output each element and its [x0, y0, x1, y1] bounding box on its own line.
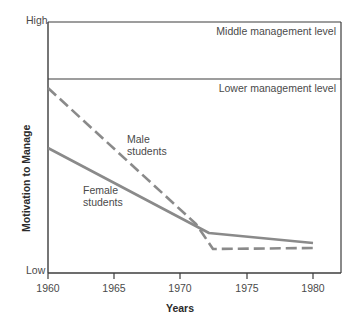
band-label-middle-management: Middle management level	[0, 25, 336, 37]
x-axis-tick-label-1965: 1965	[94, 282, 134, 294]
y-axis-title: Motivation to Manage	[20, 125, 32, 232]
band-label-lower-management: Lower management level	[0, 82, 336, 94]
x-axis-tick-label-1960: 1960	[28, 282, 68, 294]
series-label-female-line2: students	[83, 196, 123, 208]
series-label-male-line1: Male	[127, 133, 167, 145]
motivation-to-manage-chart: High Low Motivation to Manage Middle man…	[0, 0, 360, 327]
y-axis-low-label: Low	[26, 264, 45, 276]
x-axis-tick-label-1970: 1970	[160, 282, 200, 294]
x-axis-tick-label-1980: 1980	[293, 282, 333, 294]
series-label-female-line1: Female	[83, 184, 123, 196]
x-axis-tick-label-1975: 1975	[227, 282, 267, 294]
series-label-male-line2: students	[127, 145, 167, 157]
x-axis-title: Years	[0, 302, 360, 314]
series-label-male-students: Male students	[127, 133, 167, 157]
series-label-female-students: Female students	[83, 184, 123, 208]
chart-plot-area	[0, 0, 360, 327]
